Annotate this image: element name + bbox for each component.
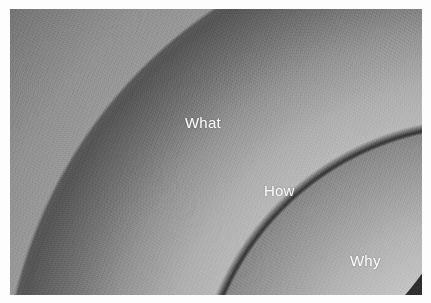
ring-label-how: How [264,183,295,198]
diagram-canvas: What How Why [10,9,422,295]
golden-circle-figure: What How Why [0,0,431,303]
ring-label-why: Why [350,253,381,268]
ring-label-what: What [185,115,221,130]
